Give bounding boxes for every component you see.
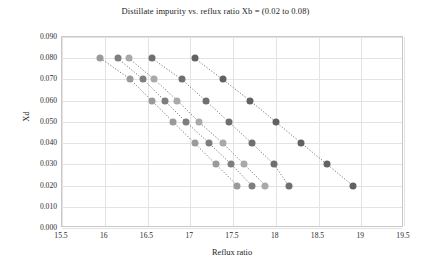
data-point: [161, 97, 168, 104]
data-point: [195, 118, 202, 125]
data-point: [248, 140, 255, 147]
data-point: [114, 55, 121, 62]
y-axis-tick: 0.070: [40, 74, 57, 83]
data-point: [202, 97, 209, 104]
gridline-vertical: [404, 37, 405, 226]
x-axis-tick: 17.5: [225, 231, 238, 240]
data-point: [97, 55, 104, 62]
data-point: [151, 76, 158, 83]
x-axis-label: Reflux ratio: [61, 248, 403, 257]
x-axis-tick: 19.5: [396, 231, 409, 240]
data-point: [219, 76, 226, 83]
data-point: [140, 76, 147, 83]
y-axis-tick: 0.050: [40, 116, 57, 125]
y-axis-tick: 0.080: [40, 53, 57, 62]
data-point: [148, 55, 155, 62]
data-point: [324, 161, 331, 168]
data-point: [219, 140, 226, 147]
y-axis-tick: 0.040: [40, 138, 57, 147]
y-axis-tick: 0.020: [40, 180, 57, 189]
x-axis-tick: 16: [100, 231, 108, 240]
data-point: [272, 118, 279, 125]
data-point: [285, 182, 292, 189]
x-axis-tick-labels: 15.51616.51717.51818.51919.5: [61, 231, 403, 245]
data-point: [174, 97, 181, 104]
data-point: [262, 182, 269, 189]
data-point: [234, 182, 241, 189]
y-axis-tick: 0.090: [40, 32, 57, 41]
x-axis-tick: 18.5: [311, 231, 324, 240]
y-axis-tick: 0.060: [40, 95, 57, 104]
x-axis-tick: 19: [356, 231, 364, 240]
data-point: [228, 161, 235, 168]
x-axis-tick: 17: [185, 231, 193, 240]
data-point: [125, 55, 132, 62]
data-point: [170, 118, 177, 125]
chart-container: Distillate impurity vs. reflux ratio Xb …: [0, 0, 431, 272]
x-axis-tick: 15.5: [54, 231, 67, 240]
data-point: [241, 161, 248, 168]
y-axis-tick: 0.010: [40, 201, 57, 210]
data-point: [248, 182, 255, 189]
data-point: [182, 118, 189, 125]
data-point: [225, 118, 232, 125]
x-axis-tick: 16.5: [140, 231, 153, 240]
data-point: [191, 55, 198, 62]
gridline-horizontal: [62, 228, 402, 229]
data-point: [206, 140, 213, 147]
chart-title: Distillate impurity vs. reflux ratio Xb …: [0, 6, 431, 16]
data-point: [178, 76, 185, 83]
data-point: [191, 140, 198, 147]
data-point: [212, 161, 219, 168]
data-point: [298, 140, 305, 147]
y-axis-label: Xd: [22, 87, 31, 147]
data-point: [247, 97, 254, 104]
data-point: [349, 182, 356, 189]
data-point: [271, 161, 278, 168]
data-points: [62, 37, 402, 226]
x-axis-tick: 18: [271, 231, 279, 240]
plot-area: [61, 36, 403, 227]
data-point: [148, 97, 155, 104]
y-axis-tick: 0.030: [40, 159, 57, 168]
data-point: [127, 76, 134, 83]
